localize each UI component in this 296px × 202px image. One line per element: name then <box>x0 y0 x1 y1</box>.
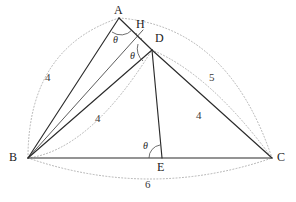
segment-BA <box>28 18 119 158</box>
angle-label-at-A: θ <box>113 35 118 45</box>
length-label-DC: 4 <box>196 110 202 121</box>
length-label-BC: 6 <box>145 179 151 190</box>
vertex-label-E: E <box>157 161 164 173</box>
vertex-label-H: H <box>136 18 145 30</box>
figure-canvas <box>0 0 296 202</box>
arc-BC-dotted <box>28 158 272 179</box>
vertex-label-B: B <box>9 151 17 163</box>
angle-label-at-E: θ <box>143 141 148 151</box>
geometry-figure: A H D B C E 4 5 4 4 6 θ θ θ <box>0 0 296 202</box>
segment-BH <box>28 30 143 158</box>
length-label-BD: 4 <box>95 113 101 124</box>
vertex-label-A: A <box>114 4 123 16</box>
vertex-label-D: D <box>155 32 164 44</box>
segment-DC <box>152 50 272 158</box>
length-label-AC: 5 <box>209 72 215 83</box>
angle-arc-at-E <box>149 145 160 158</box>
segment-BD <box>28 50 152 158</box>
vertex-label-C: C <box>277 151 285 163</box>
segment-DE <box>152 50 162 158</box>
length-label-AB: 4 <box>45 72 51 83</box>
angle-label-at-D: θ <box>130 51 135 61</box>
